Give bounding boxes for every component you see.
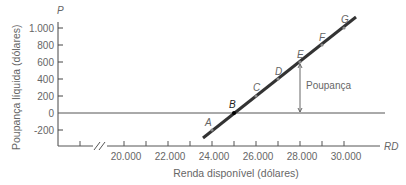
y-tick-label: 400 bbox=[37, 74, 54, 85]
point-labels: A B C D E F G bbox=[204, 14, 349, 128]
point-f bbox=[320, 43, 323, 46]
x-tick-label: 30.000 bbox=[331, 151, 362, 162]
savings-line bbox=[203, 17, 356, 138]
point-b bbox=[232, 111, 236, 115]
y-tick-label: 600 bbox=[37, 57, 54, 68]
y-ticks bbox=[58, 28, 63, 130]
point-label-e: E bbox=[297, 49, 304, 60]
point-g bbox=[342, 26, 345, 29]
y-tick-labels: 1.000 800 600 400 200 0 -200 bbox=[29, 23, 54, 136]
x-axis-symbol: RD bbox=[384, 141, 398, 152]
point-label-c: C bbox=[253, 82, 261, 93]
point-c bbox=[254, 94, 257, 97]
x-tick-label: 20.000 bbox=[111, 151, 142, 162]
savings-arrow bbox=[298, 64, 302, 112]
point-label-b: B bbox=[229, 99, 236, 110]
y-tick-label: -200 bbox=[34, 125, 54, 136]
point-label-d: D bbox=[275, 66, 282, 77]
point-label-f: F bbox=[319, 32, 326, 43]
axis-break-icon bbox=[93, 141, 107, 151]
point-d bbox=[276, 77, 279, 80]
x-ticks bbox=[80, 141, 344, 146]
y-tick-label: 1.000 bbox=[29, 23, 54, 34]
x-tick-label: 22.000 bbox=[155, 151, 186, 162]
point-a bbox=[210, 128, 213, 131]
point-label-g: G bbox=[341, 14, 349, 25]
y-tick-label: 800 bbox=[37, 40, 54, 51]
x-axis-label: Renda disponível (dólares) bbox=[173, 167, 299, 179]
y-axis-label: Poupança líquida (dólares) bbox=[10, 25, 22, 151]
y-tick-label: 200 bbox=[37, 91, 54, 102]
x-tick-label: 24.000 bbox=[199, 151, 230, 162]
y-tick-label: 0 bbox=[48, 108, 54, 119]
savings-annotation: Poupança bbox=[306, 80, 351, 91]
x-tick-label: 26.000 bbox=[243, 151, 274, 162]
savings-chart: P 1.000 800 600 400 200 0 -200 Poupança … bbox=[0, 0, 406, 185]
x-tick-label: 28.000 bbox=[287, 151, 318, 162]
y-axis-symbol: P bbox=[57, 5, 64, 16]
x-tick-labels: 20.000 22.000 24.000 26.000 28.000 30.00… bbox=[111, 151, 362, 162]
point-label-a: A bbox=[204, 117, 212, 128]
